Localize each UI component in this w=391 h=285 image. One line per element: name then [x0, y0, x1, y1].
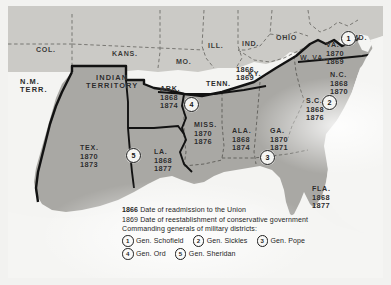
legend-generals-row-2: 4 Gen. Ord 5 Gen. Sheridan: [122, 248, 328, 260]
state-label-alabama: ALA. 1868 1874: [232, 128, 251, 152]
territory-label-new-mexico: N.M. TERR.: [20, 78, 48, 94]
legend-general-5: 5 Gen. Sheridan: [175, 248, 236, 260]
state-label-colorado: COL.: [36, 38, 56, 55]
legend-readmission-year: 1866: [122, 206, 138, 213]
legend-generals-heading: Commanding generals of military district…: [122, 225, 257, 232]
state-label-virginia: VA. 1870 1869: [326, 42, 344, 66]
state-label-missouri: MO.: [176, 50, 192, 67]
state-label-indiana: IND.: [242, 32, 259, 49]
district-marker-3-label: 3: [266, 153, 270, 162]
legend-row-generals-heading: Commanding generals of military district…: [122, 224, 328, 234]
territory-label-indian-territory: INDIAN TERRITORY: [86, 74, 138, 90]
state-label-georgia: GA. 1870 1871: [270, 128, 288, 152]
legend-general-4: 4 Gen. Ord: [122, 248, 166, 260]
legend-general-2-name: Gen. Sickles: [207, 236, 248, 246]
district-marker-3[interactable]: 3: [260, 150, 275, 165]
legend-general-1: 1 Gen. Schofield: [122, 235, 184, 247]
legend-conservative-year: 1869: [122, 216, 138, 223]
state-label-tennessee: TENN.: [206, 72, 231, 89]
legend-general-3-marker: 3: [257, 235, 269, 247]
legend-general-3-name: Gen. Pope: [271, 236, 306, 246]
state-label-louisiana: LA. 1868 1877: [154, 149, 172, 173]
map-figure: COL. KANS. MO. ILL. IND. OHIO KY. W. VA.…: [0, 0, 391, 285]
state-label-illinois: ILL.: [208, 34, 223, 51]
state-label-texas: TEX. 1870 1873: [80, 145, 99, 169]
district-marker-2[interactable]: 2: [322, 95, 337, 110]
district-marker-2-label: 2: [328, 98, 332, 107]
legend-general-5-marker: 5: [175, 248, 187, 260]
state-label-ohio: OHIO: [276, 26, 297, 43]
legend-general-1-marker: 1: [122, 235, 134, 247]
state-label-north-carolina: N.C. 1868 1870: [330, 72, 348, 96]
legend-general-2-marker: 2: [193, 235, 205, 247]
district-marker-4[interactable]: 4: [184, 97, 199, 112]
legend-general-2: 2 Gen. Sickles: [193, 235, 248, 247]
state-label-arkansas: ARK. 1868 1874: [160, 86, 180, 110]
legend-general-3: 3 Gen. Pope: [257, 235, 306, 247]
legend-row-conservative: 1869 Date of reestablishment of conserva…: [122, 215, 328, 225]
district-marker-5[interactable]: 5: [126, 148, 141, 163]
district-marker-4-label: 4: [190, 100, 194, 109]
district-marker-1-label: 1: [347, 34, 351, 43]
legend-general-1-name: Gen. Schofield: [136, 236, 184, 246]
district-marker-1[interactable]: 1: [341, 31, 356, 46]
legend-general-5-name: Gen. Sheridan: [189, 249, 236, 259]
state-label-mississippi: MISS. 1870 1876: [194, 122, 217, 146]
map-legend: 1866 Date of readmission to the Union 18…: [122, 205, 328, 260]
legend-generals-row-1: 1 Gen. Schofield 2 Gen. Sickles 3 Gen. P…: [122, 235, 328, 247]
state-dates-tennessee: 1866 1869: [236, 66, 254, 82]
legend-general-4-name: Gen. Ord: [136, 249, 166, 259]
legend-conservative-text: Date of reestablishment of conservative …: [140, 216, 308, 223]
legend-general-4-marker: 4: [122, 248, 134, 260]
state-label-west-virginia: W. VA.: [300, 46, 326, 63]
legend-readmission-text: Date of readmission to the Union: [140, 206, 246, 213]
district-marker-5-label: 5: [132, 151, 136, 160]
legend-row-readmission: 1866 Date of readmission to the Union: [122, 205, 328, 215]
state-label-kansas: KANS.: [112, 42, 138, 59]
